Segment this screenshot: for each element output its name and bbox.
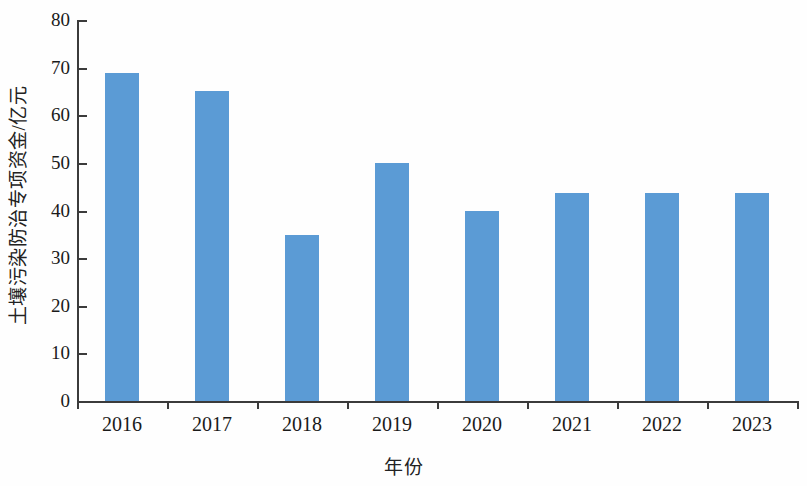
- bar: [285, 235, 319, 401]
- y-axis-tick-label: 10: [30, 343, 70, 362]
- x-axis-tick-label: 2020: [437, 412, 527, 436]
- x-axis-tick: [617, 401, 619, 409]
- y-axis-tick-label: 0: [30, 391, 70, 410]
- x-axis-tick: [527, 401, 529, 409]
- x-axis-title-text: 年份: [384, 457, 423, 478]
- plot-area: [77, 20, 797, 402]
- x-axis-tick: [77, 401, 79, 409]
- bar: [555, 193, 589, 401]
- y-axis-tick: [79, 115, 87, 117]
- x-axis-title: 年份: [0, 452, 807, 479]
- x-axis-tick: [167, 401, 169, 409]
- chart-figure: 土壤污染防治专项资金/亿元 01020304050607080 20162017…: [0, 0, 807, 486]
- x-axis-tick: [257, 401, 259, 409]
- x-axis-tick: [797, 401, 799, 409]
- x-axis-tick-label: 2018: [257, 412, 347, 436]
- y-axis-tick-label: 50: [30, 153, 70, 172]
- y-axis-tick-label: 30: [30, 248, 70, 267]
- y-axis-tick-label: 60: [30, 105, 70, 124]
- y-axis-tick: [79, 68, 87, 70]
- x-axis-tick-label: 2016: [77, 412, 167, 436]
- x-axis-tick-label: 2019: [347, 412, 437, 436]
- x-axis-tick-label: 2022: [617, 412, 707, 436]
- bar: [735, 193, 769, 401]
- y-axis-tick: [79, 353, 87, 355]
- y-axis-tick: [79, 258, 87, 260]
- x-axis-tick-labels: 20162017201820192020202120222023: [77, 412, 797, 442]
- bar: [105, 73, 139, 401]
- y-axis-tick-label: 20: [30, 296, 70, 315]
- x-axis-tick-label: 2021: [527, 412, 617, 436]
- bar: [195, 91, 229, 402]
- y-axis-tick-labels: 01020304050607080: [22, 20, 70, 403]
- x-axis-tick: [707, 401, 709, 409]
- bar: [375, 163, 409, 401]
- y-axis-tick-label: 40: [30, 201, 70, 220]
- x-axis-tick-label: 2017: [167, 412, 257, 436]
- y-axis-tick: [79, 401, 87, 403]
- y-axis-tick-label: 70: [30, 58, 70, 77]
- x-axis-tick-label: 2023: [707, 412, 797, 436]
- x-axis-tick: [347, 401, 349, 409]
- bar: [645, 193, 679, 401]
- y-axis-tick: [79, 20, 87, 22]
- y-axis-tick: [79, 306, 87, 308]
- x-axis-tick: [437, 401, 439, 409]
- y-axis-tick-label: 80: [30, 10, 70, 29]
- y-axis-tick: [79, 163, 87, 165]
- bar: [465, 211, 499, 401]
- y-axis-tick: [79, 211, 87, 213]
